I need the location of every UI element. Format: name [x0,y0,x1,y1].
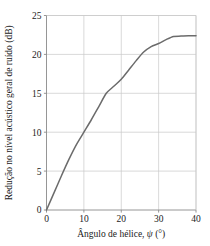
x-axis-title-main: Ângulo de hélice, [77,228,147,239]
line-chart: 010203040 0510152025 Ângulo de hélice, ψ… [0,0,210,246]
x-tick-label-0: 0 [44,214,49,224]
y-axis-title-text: Redução no nível acústico geral de ruído… [4,25,15,200]
x-tick-label-20: 20 [117,214,127,224]
x-tick-label-10: 10 [79,214,89,224]
y-tick-label-20: 20 [32,50,42,60]
y-tick-label-0: 0 [37,205,42,215]
y-tick-label-10: 10 [32,128,42,138]
y-tick-label-15: 15 [32,89,42,99]
x-tick-label-40: 40 [191,214,201,224]
x-tick-label-30: 30 [154,214,164,224]
x-axis-title-unit: (°) [153,229,166,240]
y-tick-label-5: 5 [37,167,42,177]
x-axis-title: Ângulo de hélice, ψ (°) [77,228,165,240]
y-tick-label-25: 25 [32,11,42,21]
x-axis-title-text: Ângulo de hélice, ψ (°) [77,228,165,240]
chart-figure: 010203040 0510152025 Ângulo de hélice, ψ… [0,0,210,246]
y-axis-title: Redução no nível acústico geral de ruído… [4,25,15,200]
